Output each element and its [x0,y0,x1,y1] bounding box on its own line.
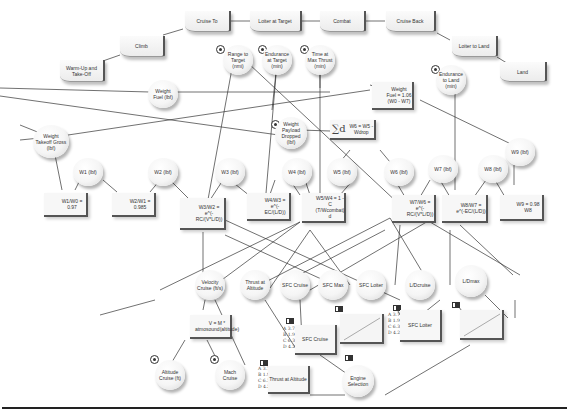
phase-label: Land [517,69,528,75]
sum-icon: ∑d [332,126,346,132]
phase-cruise-back[interactable]: Cruise Back [386,11,436,32]
variable-engine-selection[interactable]: Engine Selection [342,365,374,397]
influence-diagram-canvas: Warm-Up and Take-Off Climb Cruise To Loi… [0,0,569,417]
table-sfc-cruise[interactable]: SFC Cruise [295,325,337,355]
variable-w4[interactable]: W4 (lbf) [282,158,312,186]
phase-label: Cruise To [196,18,217,24]
phase-label: Climb [135,43,148,49]
phase-label: Cruise Back [397,18,424,24]
table-options-sfc-loiter: A 3.7 B 1.9 C 6.3 D 4.2 [388,312,400,336]
variable-w9[interactable]: W9 (lbf) [505,138,535,166]
phase-combat[interactable]: Combat [320,11,366,32]
phase-label: Loiter at Target [258,18,291,24]
curve-icon [460,310,504,340]
phase-loiter-at-target[interactable]: Loiter at Target [250,11,302,32]
phase-land[interactable]: Land [500,62,547,82]
equation-w2-w1[interactable]: W2/W1 = 0.985 [112,193,156,217]
equation-w7-w6[interactable]: W7/W6 = e^(-RC/(V*L/D)) [392,195,436,223]
variable-w1[interactable]: W1 (lbf) [73,158,103,186]
decision-mach-cruise[interactable]: Mach Cruise [215,360,245,390]
graph-sfc-max[interactable] [340,314,384,344]
phase-climb[interactable]: Climb [120,36,165,57]
decision-time-max-thrust[interactable]: Time at Max Thrust (min) [305,45,335,75]
variable-sfc-loiter[interactable]: SFC Loiter [356,270,386,300]
phase-loiter-to-land[interactable]: Loiter to Land [452,36,498,57]
graph-flag-icon [335,306,343,312]
decision-altitude-cruise[interactable]: Altitude Cruise (ft) [155,360,185,390]
graph-ld-max[interactable] [460,310,504,340]
equation-w1-w0[interactable]: W1/W0 = 0.97 [44,193,88,217]
phase-cruise-to[interactable]: Cruise To [185,11,231,32]
equation-w3-w2[interactable]: W3/W2 = e^(-RC/(V*L/D)) [180,198,226,230]
equation-w4-w3[interactable]: W4/W3 = e^(-EC/(L/D)) [247,193,291,221]
variable-sfc-cruise[interactable]: SFC Cruise [280,270,310,300]
decision-range-to-target[interactable]: Range to Target (nmi) [223,45,253,75]
decision-icon [210,355,219,364]
variable-w8[interactable]: W8 (lbf) [478,155,508,183]
graph-flag-icon [452,302,460,308]
bottom-divider [2,407,567,409]
variable-w2[interactable]: W2 (lbf) [148,158,178,186]
table-sfc-loiter[interactable]: SFC Loiter [400,310,442,342]
variable-ld-max[interactable]: L/Dmax [455,265,487,297]
equation-w5-w4[interactable]: W5/W4 = 1 - C (T/Wcombat) d [302,193,346,223]
variable-sfc-max[interactable]: SFC Max [318,270,348,300]
phase-label: Loiter to Land [459,43,490,49]
decision-icon [150,355,159,364]
variable-w7[interactable]: W7 (lbf) [428,155,458,183]
variable-weight-fuel[interactable]: Weight Fuel (lbf) [148,80,178,108]
variable-thrust-at-altitude[interactable]: Thrust at Altitude [240,270,270,300]
phase-label: Warm-Up and Take-Off [60,65,103,77]
table-options-sfc-cruise: A 3.7 B 1.9 C 6.3 D 4.2 [283,326,295,350]
table-flag-icon [286,318,294,324]
equation-weight-fuel[interactable]: Weight Fuel = 1.06 (W0 - W7) [372,82,414,110]
decision-weight-payload-dropped[interactable]: Weight Payload Dropped (lbf) [275,117,307,149]
decision-endurance-at-target[interactable]: Endurance at Target (min) [262,45,292,75]
table-thrust-at-altitude[interactable]: Thrust at Altitude [268,366,310,394]
variable-w5[interactable]: W5 (lbf) [327,158,357,186]
table-flag-icon [345,355,353,361]
variable-w6[interactable]: W6 (lbf) [384,158,414,186]
phase-label: Combat [333,18,351,24]
equation-w8-w7[interactable]: W8/W7 = e^(-EC/(L/D)) [442,195,488,223]
variable-ld-cruise[interactable]: L/Dcruise [405,270,435,300]
equation-w6-sum[interactable]: ∑d W6 = W5 - Wdrop [330,120,376,140]
variable-w3[interactable]: W3 (lbf) [215,158,245,186]
equation-velocity[interactable]: V = M * atmosound(altitude) [190,315,232,339]
variable-velocity-cruise[interactable]: Velocity Cruise (ft/s) [195,270,225,300]
curve-icon [340,314,384,344]
variable-weight-takeoff-gross[interactable]: Weight Takeoff Gross (lbf) [33,125,69,158]
decision-endurance-to-land[interactable]: Endurance to Land (min) [436,65,466,95]
phase-warmup-takeoff[interactable]: Warm-Up and Take-Off [60,60,105,82]
equation-w9-w8[interactable]: W9 = 0.98 W8 [500,195,544,221]
